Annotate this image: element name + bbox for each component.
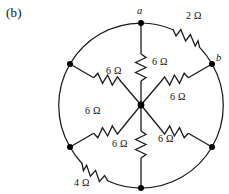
node-dot-upper-left	[67, 61, 73, 67]
resistor-label-4-ohm: 4 Ω	[74, 178, 90, 188]
resistor-label-2-ohm: 2 Ω	[186, 11, 202, 21]
spoke-to-node-lower-right	[141, 105, 212, 147]
spoke-ll-lead-inner	[121, 105, 141, 129]
figure-part-label: (b)	[6, 6, 22, 19]
node-dot-lower-right	[209, 144, 215, 150]
resistor-label-spoke-b: 6 Ω	[170, 92, 186, 102]
node-label-b: b	[216, 53, 221, 64]
resistor-label-spoke-bottom: 6 Ω	[112, 139, 128, 149]
node-dot-center-hub	[138, 102, 145, 109]
node-dot-lower-left	[67, 144, 73, 150]
node-dot-bottom	[138, 185, 144, 191]
arc-a-to-two-ohm-stub	[141, 23, 173, 30]
arc-four-ohm-to-lower-left-stub	[70, 147, 82, 164]
node-dot-b	[209, 61, 215, 67]
arc-lower-left-to-upper-left	[59, 64, 70, 147]
spoke-ll-lead-outer	[70, 133, 94, 147]
resistor-label-spoke-upper-left: 6 Ω	[106, 66, 122, 76]
spoke-ul-lead-outer	[70, 64, 94, 78]
spoke-to-node-bottom	[136, 105, 146, 188]
spoke-bottom-resistor-zigzag	[136, 131, 146, 158]
arc-two-ohm-to-b-stub	[200, 47, 212, 64]
node-dot-a	[138, 20, 144, 26]
spoke-a-resistor-zigzag	[136, 54, 146, 81]
spoke-lr-lead-inner	[141, 105, 161, 129]
spoke-ul-lead-inner	[121, 82, 141, 105]
spoke-b-lead-inner	[141, 82, 161, 105]
spoke-to-node-a	[136, 23, 146, 105]
resistor-label-spoke-a: 6 Ω	[152, 57, 168, 67]
arc-bottom-to-four-ohm-stub	[108, 181, 141, 188]
spoke-b-resistor-zigzag	[161, 73, 189, 85]
spoke-b-lead-outer	[188, 64, 212, 78]
node-label-a: a	[137, 6, 142, 17]
arc-upper-left-to-a	[70, 23, 141, 64]
arc-b-to-lower-right	[212, 64, 223, 147]
resistor-2-ohm	[173, 30, 199, 48]
circuit-diagram	[0, 0, 229, 194]
spoke-lr-lead-outer	[188, 133, 212, 147]
arc-lower-right-to-bottom	[141, 147, 212, 188]
resistor-label-spoke-lower-right: 6 Ω	[158, 134, 174, 144]
figure-container: (b) a b 2 Ω 4 Ω 6 Ω 6 Ω 6 Ω 6 Ω 6 Ω 6 Ω	[0, 0, 229, 194]
spoke-to-node-lower-left	[70, 105, 141, 147]
resistor-label-spoke-lower-left: 6 Ω	[85, 106, 101, 116]
spoke-ll-resistor-zigzag	[94, 126, 122, 138]
